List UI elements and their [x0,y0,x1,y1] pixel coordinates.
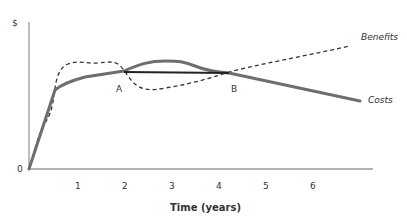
x-tick-5: 5 [263,181,269,191]
point-a-label: A [116,84,123,94]
x-tick-4: 4 [216,181,222,191]
a-b-line [124,72,229,73]
costs-label: Costs [368,95,393,105]
x-tick-1: 1 [75,181,81,191]
cost-benefit-chart: $ 0 1 2 3 4 5 6 Time (years) A B Benefit… [0,0,407,217]
x-tick-3: 3 [169,181,175,191]
y-axis-label: $ [12,18,18,28]
x-tick-6: 6 [310,181,316,191]
point-b-label: B [231,84,237,94]
origin-label: 0 [17,164,23,174]
benefits-label: Benefits [361,32,398,42]
x-tick-2: 2 [122,181,128,191]
costs-line [29,61,360,169]
x-axis-title: Time (years) [170,202,241,213]
